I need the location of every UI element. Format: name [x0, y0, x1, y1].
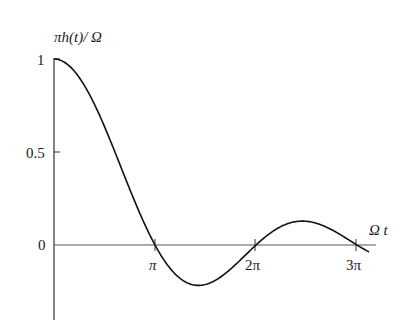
- sinc-curve: [54, 59, 369, 285]
- x-tick-label-2pi: 2π: [245, 257, 261, 273]
- x-tick-label-3pi: 3π: [346, 257, 362, 273]
- y-axis-label: πh(t)/ Ω: [54, 29, 102, 46]
- y-tick-label-0.5: 0.5: [26, 145, 45, 161]
- y-tick-label-1: 1: [37, 52, 45, 68]
- x-tick-label-pi: π: [149, 257, 157, 273]
- y-tick-label-0: 0: [38, 237, 46, 253]
- x-axis-label: Ω t: [369, 222, 389, 238]
- sinc-chart: πh(t)/ Ω 1 0.5 0 π 2π 3π Ω t: [0, 0, 413, 331]
